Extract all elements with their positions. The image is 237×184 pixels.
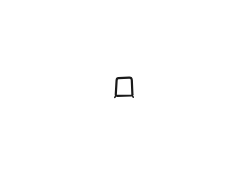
square-outline-icon-svg [112, 75, 136, 99]
square-outline-icon[interactable] [112, 75, 136, 99]
blank-canvas [0, 0, 237, 184]
